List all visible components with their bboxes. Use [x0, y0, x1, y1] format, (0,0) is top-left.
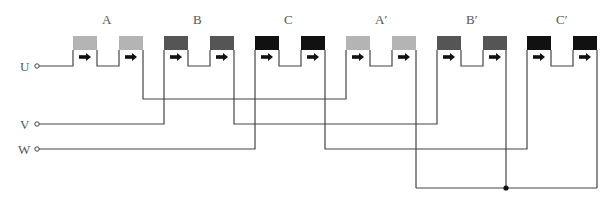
arrow-icons: [79, 53, 591, 61]
coil-label-b-prime: B′: [466, 12, 478, 27]
neutral-point-icon: [503, 185, 508, 190]
coil-label-a: A: [102, 12, 112, 27]
coil-b: [39, 36, 437, 124]
terminal-label-u: U: [20, 59, 30, 74]
terminal-label-v: V: [20, 117, 30, 132]
winding-diagram: A B C A′ B′ C′ U V W: [0, 0, 614, 202]
coil-c: [39, 36, 527, 149]
coil-label-c-prime: C′: [556, 12, 568, 27]
terminal-v-icon: [35, 122, 39, 126]
coil-label-b: B: [193, 12, 202, 27]
coil-label-a-prime: A′: [375, 12, 387, 27]
terminal-label-w: W: [18, 142, 31, 157]
terminal-u-icon: [35, 64, 39, 68]
terminal-w-icon: [35, 147, 39, 151]
coil-a: [39, 36, 346, 99]
coil-label-c: C: [284, 12, 293, 27]
